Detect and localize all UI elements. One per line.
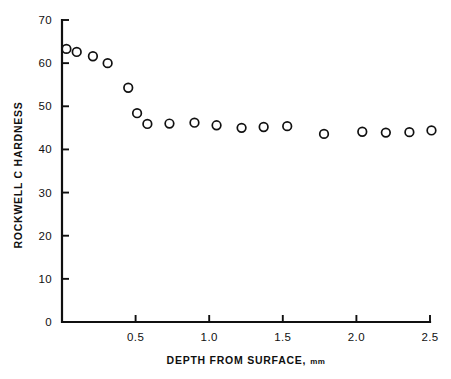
y-tick-label: 20 — [38, 230, 52, 242]
x-tick-label: 2.0 — [348, 331, 365, 343]
data-point — [212, 121, 221, 130]
axis-lines — [62, 20, 430, 322]
data-point — [320, 130, 329, 139]
data-point — [89, 52, 98, 61]
y-tick-label: 60 — [38, 57, 52, 69]
data-point-group — [62, 45, 436, 139]
x-tick-label: 2.5 — [421, 331, 438, 343]
y-tick-label: 30 — [38, 187, 52, 199]
y-tick-label: 40 — [38, 143, 52, 155]
data-point — [133, 109, 142, 118]
data-point — [405, 128, 414, 137]
data-point — [358, 127, 367, 136]
data-point — [427, 126, 436, 135]
rockwell-hardness-depth-scatter-chart: 010203040506070 0.51.01.52.02.5 DEPTH FR… — [0, 0, 451, 379]
y-tick-label: 10 — [38, 273, 52, 285]
data-point — [72, 48, 81, 57]
data-point — [103, 59, 112, 68]
plot-axes — [62, 20, 430, 322]
y-tick-label: 70 — [38, 14, 52, 26]
x-axis-ticks: 0.51.01.52.02.5 — [127, 315, 439, 343]
data-point — [259, 123, 268, 132]
data-point — [237, 124, 246, 133]
x-tick-label: 1.0 — [201, 331, 218, 343]
y-axis-title: ROCKWELL C HARDNESS — [12, 101, 24, 248]
data-point — [124, 83, 133, 92]
chart-container: 010203040506070 0.51.01.52.02.5 DEPTH FR… — [0, 0, 451, 379]
data-point — [62, 45, 71, 54]
x-axis-title: DEPTH FROM SURFACE,mm — [167, 354, 326, 366]
y-tick-label: 0 — [45, 316, 52, 328]
data-point — [190, 118, 199, 127]
x-tick-label: 1.5 — [274, 331, 291, 343]
data-point — [165, 119, 174, 128]
y-tick-label: 50 — [38, 100, 52, 112]
y-axis-ticks: 010203040506070 — [38, 14, 69, 328]
data-point — [143, 120, 152, 129]
data-point — [283, 122, 292, 131]
x-tick-label: 0.5 — [127, 331, 144, 343]
data-point — [382, 128, 391, 137]
